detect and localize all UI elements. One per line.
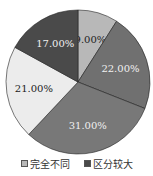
legend-item-1: 区分较大 [84, 156, 133, 171]
pie-slice-label-4: 17.00% [36, 38, 74, 49]
pie-slice-label-3: 21.00% [15, 83, 53, 94]
pie-chart: 9.00%22.00%31.00%21.00%17.00% [0, 0, 153, 155]
legend-label-1: 区分较大 [93, 156, 133, 171]
legend-swatch-1 [84, 160, 91, 167]
pie-slice-label-2: 31.00% [69, 120, 107, 131]
legend-item-0: 完全不同 [21, 156, 70, 171]
legend-label-0: 完全不同 [30, 156, 70, 171]
legend: 完全不同 区分较大 [0, 156, 153, 171]
pie-slice-label-0: 9.00% [75, 34, 107, 45]
pie-slice-label-1: 22.00% [101, 63, 139, 74]
legend-swatch-0 [21, 160, 28, 167]
